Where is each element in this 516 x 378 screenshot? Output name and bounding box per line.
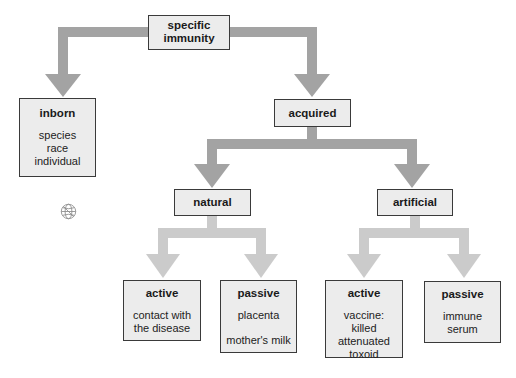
- node-title: active: [326, 287, 402, 300]
- node-natural-passive: passive placenta mother's milk: [220, 280, 297, 353]
- node-item: toxoid: [326, 348, 402, 361]
- node-title: artificial: [378, 196, 452, 209]
- node-title-line-1: specific: [149, 19, 229, 32]
- node-inborn: inborn species race individual: [19, 98, 96, 177]
- node-artificial-passive: passive immune serum: [424, 281, 501, 343]
- node-artificial-active: active vaccine: killed attenuated toxoid: [325, 280, 403, 358]
- node-item: attenuated: [326, 335, 402, 348]
- node-natural-active: active contact with the disease: [123, 280, 201, 341]
- node-specific-immunity: specific immunity: [148, 15, 230, 50]
- arrow-group-artificial: [347, 215, 481, 278]
- node-title: passive: [221, 287, 296, 300]
- node-item: race: [20, 142, 95, 155]
- node-item: the disease: [124, 322, 200, 335]
- node-item: immune: [425, 310, 500, 323]
- arrow-group-acquired: [194, 126, 430, 188]
- arrow-group-natural: [146, 215, 278, 278]
- node-item: killed: [326, 322, 402, 335]
- node-artificial: artificial: [377, 189, 453, 216]
- node-item: species: [20, 129, 95, 142]
- node-acquired: acquired: [274, 99, 351, 127]
- node-natural: natural: [174, 189, 251, 216]
- node-title-line-2: immunity: [149, 32, 229, 45]
- node-item: serum: [425, 323, 500, 336]
- node-title: natural: [175, 196, 250, 209]
- node-item: placenta: [221, 309, 296, 322]
- node-title: acquired: [275, 107, 350, 120]
- node-item: mother's milk: [221, 334, 296, 347]
- node-title: passive: [425, 288, 500, 301]
- globe-icon: [60, 203, 77, 220]
- node-title: active: [124, 287, 200, 300]
- node-item: vaccine:: [326, 309, 402, 322]
- node-item: contact with: [124, 309, 200, 322]
- node-item: individual: [20, 155, 95, 168]
- node-title: inborn: [20, 107, 95, 120]
